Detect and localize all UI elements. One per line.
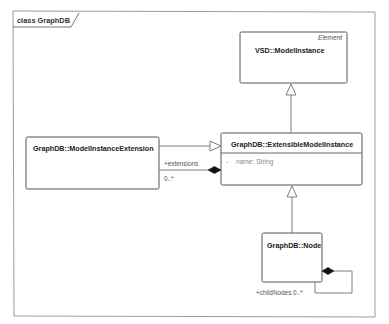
generalization-arrowhead-icon — [286, 84, 296, 95]
multiplicity-label-extensions: 0..* — [164, 175, 174, 182]
attribute-name: name: String — [236, 158, 273, 165]
generalization-arrowhead-icon — [210, 141, 221, 151]
class-name-node: GraphDB::Node — [267, 241, 321, 250]
composition-diamond-icon — [322, 268, 334, 275]
attribute-visibility: - — [226, 158, 228, 165]
class-name-extensible-model-instance: GraphDB::ExtensibleModelInstance — [231, 140, 353, 149]
role-label-child-nodes: +childNodes 0..* — [256, 289, 303, 296]
generalization-arrowhead-icon — [287, 186, 297, 197]
composition-diamond-icon — [208, 167, 221, 174]
class-name-vsd-model-instance: VSD::ModelInstance — [255, 46, 325, 55]
role-label-extensions: +extensions — [164, 160, 198, 167]
frame-title: class GraphDB — [17, 16, 70, 25]
class-stereotype: Element — [318, 34, 342, 41]
class-name-model-instance-extension: GraphDB::ModelInstanceExtension — [33, 144, 154, 153]
